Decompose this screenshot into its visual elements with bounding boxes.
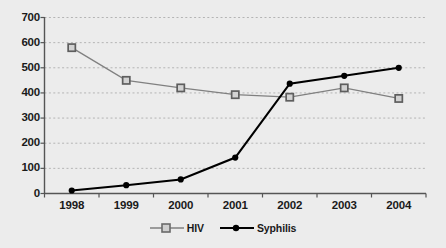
data-point-marker <box>341 84 348 91</box>
data-point-marker <box>396 65 402 71</box>
y-axis-labels: 0100200300400500600700 <box>0 0 40 248</box>
x-axis-tick-label: 2002 <box>265 199 315 211</box>
legend-label-syphilis: Syphilis <box>257 222 296 234</box>
legend-item-hiv[interactable]: HIV <box>150 222 204 234</box>
data-point-marker <box>395 95 402 102</box>
data-point-marker <box>232 91 239 98</box>
data-point-marker <box>123 182 129 188</box>
x-axis-tick-label: 2000 <box>156 199 206 211</box>
gridlines <box>45 18 427 194</box>
y-axis-tick-label: 400 <box>2 87 40 98</box>
legend-swatch-hiv <box>150 222 184 234</box>
x-axis-tick-label: 2001 <box>210 199 260 211</box>
legend-label-hiv: HIV <box>187 222 204 234</box>
x-axis-tick-label: 2003 <box>319 199 369 211</box>
legend-swatch-syphilis <box>220 222 254 234</box>
y-axis-tick-label: 300 <box>2 112 40 123</box>
data-point-marker <box>341 73 347 79</box>
data-point-marker <box>232 154 238 160</box>
data-point-marker <box>177 84 184 91</box>
data-point-marker <box>286 94 293 101</box>
y-axis-tick-label: 200 <box>2 137 40 148</box>
series-line-syphilis <box>72 68 399 191</box>
y-axis-tick-label: 100 <box>2 162 40 173</box>
series-markers-syphilis <box>69 65 402 194</box>
chart-legend: HIV Syphilis <box>0 222 446 234</box>
y-axis-tick-label: 600 <box>2 37 40 48</box>
data-point-marker <box>287 81 293 87</box>
x-axis-tick-label: 2004 <box>374 199 424 211</box>
x-axis-tick-label: 1999 <box>101 199 151 211</box>
x-axis-tick-label: 1998 <box>47 199 97 211</box>
y-axis-tick-label: 700 <box>2 12 40 23</box>
series-polyline <box>72 68 399 191</box>
data-point-marker <box>178 176 184 182</box>
line-chart: 0100200300400500600700 19981999200020012… <box>0 0 446 248</box>
y-axis-tick-label: 500 <box>2 62 40 73</box>
data-point-marker <box>68 44 75 51</box>
y-axis-tick-label: 0 <box>2 188 40 199</box>
series-markers-hiv <box>68 44 402 102</box>
data-point-marker <box>69 187 75 193</box>
legend-item-syphilis[interactable]: Syphilis <box>220 222 296 234</box>
data-point-marker <box>123 77 130 84</box>
